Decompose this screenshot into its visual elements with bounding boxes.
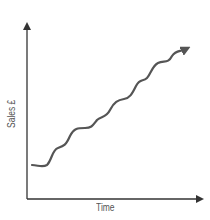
x-axis-label: Time bbox=[96, 202, 115, 213]
chart-canvas bbox=[0, 0, 210, 220]
y-axis-label: Sales £ bbox=[6, 100, 17, 128]
sales-curve bbox=[32, 49, 186, 166]
